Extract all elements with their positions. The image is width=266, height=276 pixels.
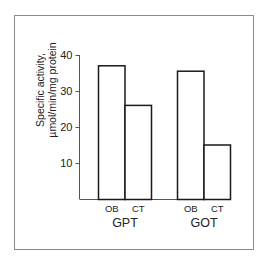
bar-category-label: CT — [132, 203, 145, 214]
y-axis-label: Specific activity,µmol/min/mg protein — [34, 42, 58, 137]
bar-got-ob — [178, 71, 205, 199]
y-tick-label: 20 — [60, 121, 72, 133]
bar-gpt-ob — [99, 66, 126, 200]
bar-got-ct — [204, 145, 231, 200]
bar-category-label: OB — [105, 203, 119, 214]
y-axis-title: Specific activity,µmol/min/mg protein — [34, 42, 58, 137]
group-label: GPT — [112, 216, 138, 230]
bar-category-label: CT — [211, 203, 224, 214]
y-tick-label: 30 — [60, 85, 72, 97]
y-tick-label: 40 — [60, 49, 72, 61]
y-tick-label: 10 — [60, 157, 72, 169]
bar-chart: 10203040 OBCTGPTOBCTGOT Specific activit… — [0, 0, 266, 276]
group-label: GOT — [190, 216, 217, 230]
bar-gpt-ct — [125, 105, 152, 199]
bar-category-label: OB — [184, 203, 198, 214]
